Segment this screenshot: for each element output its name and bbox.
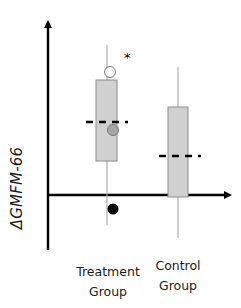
- gray-circle-marker: [108, 125, 119, 136]
- black-dot-marker: [108, 204, 119, 215]
- category-label-line: Group: [135, 276, 221, 296]
- category-label-line: Control: [135, 256, 221, 276]
- significance-asterisk: *: [124, 50, 131, 65]
- y-axis-label: ΔGMFM-66: [8, 118, 30, 258]
- box-treatment: *: [86, 45, 131, 225]
- box-control-iqr: [168, 107, 188, 197]
- box-control: [159, 67, 201, 238]
- box-treatment-iqr: [96, 80, 117, 161]
- open-circle-marker: [105, 67, 116, 78]
- category-label-control: Control Group: [135, 256, 221, 296]
